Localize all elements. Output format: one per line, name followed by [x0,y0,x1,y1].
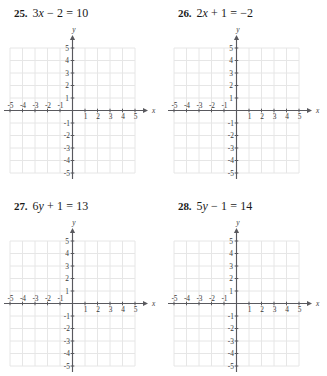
svg-text:-1: -1 [64,119,70,128]
svg-text:-2: -2 [45,101,51,110]
problem-26-equation: 2x + 1 = −2 [196,6,253,20]
coordinate-grid-28[interactable]: -5-4-3-2-11234554321-1-2-3-4-5xy [166,219,327,376]
svg-text:-5: -5 [7,294,13,303]
svg-text:-2: -2 [64,131,70,140]
svg-text:4: 4 [121,305,125,314]
svg-text:5: 5 [229,237,233,246]
svg-text:1: 1 [229,94,233,103]
problem-28-number: 28. [178,200,191,212]
svg-text:2: 2 [65,81,69,90]
svg-text:2: 2 [229,274,233,283]
problem-26-graph: -5-4-3-2-11234554321-1-2-3-4-5xy [166,26,327,194]
svg-text:-4: -4 [20,294,26,303]
svg-text:1: 1 [84,112,88,121]
svg-text:-5: -5 [64,362,70,371]
svg-text:5: 5 [298,305,302,314]
y-axis-label: y [71,219,76,227]
svg-text:-5: -5 [228,169,234,178]
svg-text:-1: -1 [57,294,63,303]
problem-28: 28.5y − 1 = 14 -5-4-3-2-11234554321-1-2-… [166,197,327,376]
svg-text:-2: -2 [209,294,215,303]
svg-text:5: 5 [229,44,233,53]
problem-26: 26.2x + 1 = −2 -5-4-3-2-11234554321-1-2-… [166,4,327,194]
svg-text:2: 2 [260,305,264,314]
problem-28-graph: -5-4-3-2-11234554321-1-2-3-4-5xy [166,219,327,376]
svg-text:3: 3 [229,69,233,78]
problem-25-equation: 3x − 2 = 10 [32,6,88,20]
svg-text:-4: -4 [64,349,70,358]
problem-28-equation: 5y − 1 = 14 [196,199,252,213]
svg-text:-5: -5 [7,101,13,110]
svg-text:5: 5 [298,112,302,121]
y-axis-label: y [71,26,76,34]
problem-26-number: 26. [178,7,191,19]
coordinate-grid-25[interactable]: -5-4-3-2-11234554321-1-2-3-4-5xy [2,26,165,194]
svg-text:-3: -3 [196,101,202,110]
problem-27-equation: 6y + 1 = 13 [32,199,88,213]
svg-text:3: 3 [229,262,233,271]
problem-27-graph: -5-4-3-2-11234554321-1-2-3-4-5xy [2,219,165,376]
svg-text:-3: -3 [196,294,202,303]
svg-text:-4: -4 [64,156,70,165]
svg-text:-1: -1 [57,101,63,110]
svg-text:-5: -5 [64,169,70,178]
svg-text:2: 2 [229,81,233,90]
svg-text:-2: -2 [64,324,70,333]
svg-text:1: 1 [248,112,252,121]
axis-name-labels: xy [71,26,156,115]
svg-text:5: 5 [134,112,138,121]
svg-text:2: 2 [65,274,69,283]
problem-25-number: 25. [14,7,27,19]
axis-name-labels: xy [235,26,320,115]
y-axis-label: y [235,26,240,34]
coordinate-grid-26[interactable]: -5-4-3-2-11234554321-1-2-3-4-5xy [166,26,327,194]
svg-text:-1: -1 [228,119,234,128]
x-axis-label: x [151,299,156,308]
svg-text:-5: -5 [171,101,177,110]
problem-27-number: 27. [14,200,27,212]
svg-text:-3: -3 [228,337,234,346]
problem-25-graph: -5-4-3-2-11234554321-1-2-3-4-5xy [2,26,165,194]
svg-text:5: 5 [134,305,138,314]
x-axis-label: x [151,106,156,115]
svg-text:1: 1 [65,94,69,103]
coordinate-grid-27[interactable]: -5-4-3-2-11234554321-1-2-3-4-5xy [2,219,165,376]
problem-27-prompt: 27.6y + 1 = 13 [2,197,165,219]
x-axis-label: x [315,299,320,308]
svg-text:-3: -3 [32,294,38,303]
svg-text:-3: -3 [228,144,234,153]
svg-text:4: 4 [65,249,69,258]
svg-text:-2: -2 [209,101,215,110]
axis-name-labels: xy [235,219,320,308]
svg-text:3: 3 [273,112,277,121]
svg-text:3: 3 [109,112,113,121]
svg-text:3: 3 [65,69,69,78]
svg-text:5: 5 [65,44,69,53]
svg-text:1: 1 [65,287,69,296]
svg-text:3: 3 [273,305,277,314]
svg-text:4: 4 [229,249,233,258]
svg-text:4: 4 [285,112,289,121]
svg-text:-3: -3 [64,144,70,153]
svg-text:-2: -2 [228,324,234,333]
svg-text:1: 1 [84,305,88,314]
svg-text:-5: -5 [228,362,234,371]
problem-26-prompt: 26.2x + 1 = −2 [166,4,327,26]
problem-25-prompt: 25.3x − 2 = 10 [2,4,165,26]
y-axis-label: y [235,219,240,227]
svg-text:-3: -3 [64,337,70,346]
svg-text:-1: -1 [221,294,227,303]
svg-text:4: 4 [285,305,289,314]
svg-text:-1: -1 [221,101,227,110]
svg-text:4: 4 [229,56,233,65]
problem-28-prompt: 28.5y − 1 = 14 [166,197,327,219]
svg-text:-4: -4 [228,349,234,358]
problem-27: 27.6y + 1 = 13 -5-4-3-2-11234554321-1-2-… [2,197,165,376]
svg-text:3: 3 [65,262,69,271]
svg-text:-4: -4 [184,101,190,110]
svg-text:2: 2 [96,305,100,314]
svg-text:-4: -4 [20,101,26,110]
svg-text:-1: -1 [64,312,70,321]
svg-text:1: 1 [229,287,233,296]
svg-text:5: 5 [65,237,69,246]
